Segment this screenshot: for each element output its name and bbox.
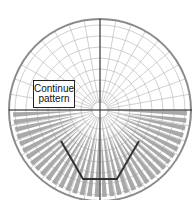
continue-pattern-label: Continue pattern xyxy=(33,80,75,108)
polar-grid-diagram xyxy=(0,0,192,200)
label-line-2: pattern xyxy=(38,94,69,104)
